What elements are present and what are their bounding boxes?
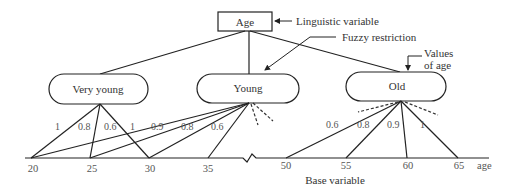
degree-label: 0.9 (387, 119, 400, 130)
base-variable-label: Base variable (305, 174, 365, 186)
fuzzy-linguistic-variable-diagram: Age Linguistic variable Fuzzy restrictio… (0, 0, 513, 192)
degree-label: 0.8 (181, 121, 194, 132)
tick-label: 65 (454, 160, 465, 171)
tick-label: 35 (203, 163, 214, 174)
membership-lines-old (286, 101, 458, 158)
term-node-old: Old (346, 72, 446, 101)
values-of-age-line2: of age (424, 59, 451, 71)
linguistic-variable-label: Linguistic variable (296, 15, 379, 27)
term-label: Old (389, 80, 406, 92)
degree-label: 1 (420, 119, 425, 130)
values-of-age-line1: Values (424, 47, 453, 59)
root-label: Age (236, 16, 254, 28)
tick-label: 30 (145, 163, 156, 174)
degree-label: 1 (130, 121, 135, 132)
degree-label: 0.8 (357, 119, 370, 130)
young-continuation-dashes (251, 103, 273, 125)
tick-label: 50 (281, 160, 292, 171)
annotation-linguistic-variable: Linguistic variable (275, 15, 379, 27)
annotation-fuzzy-restriction: Fuzzy restriction (265, 31, 417, 70)
base-variable-axis (25, 154, 489, 162)
tick-label: 25 (87, 163, 98, 174)
annotation-values-of-age: Values of age (408, 47, 453, 71)
tick-label: 20 (28, 163, 39, 174)
term-label: Very young (72, 83, 124, 95)
term-node-young: Young (197, 74, 299, 103)
term-label: Young (234, 82, 263, 94)
degree-labels: 1 0.8 0.6 1 0.9 0.8 0.6 0.6 0.8 0.9 1 (55, 119, 425, 132)
fuzzy-restriction-label: Fuzzy restriction (342, 31, 417, 43)
tick-label: 60 (403, 160, 414, 171)
degree-label: 0.6 (326, 119, 339, 130)
root-node-age: Age (218, 12, 272, 31)
tick-label: 55 (341, 160, 352, 171)
term-node-very-young: Very young (49, 74, 148, 104)
degree-label: 0.6 (104, 121, 117, 132)
degree-label: 1 (55, 121, 60, 132)
degree-label: 0.9 (151, 121, 164, 132)
degree-label: 0.8 (78, 121, 91, 132)
axis-unit-label: age (477, 160, 492, 171)
axis-tick-labels: 20 25 30 35 50 55 60 65 age (28, 160, 492, 174)
degree-label: 0.6 (211, 121, 224, 132)
